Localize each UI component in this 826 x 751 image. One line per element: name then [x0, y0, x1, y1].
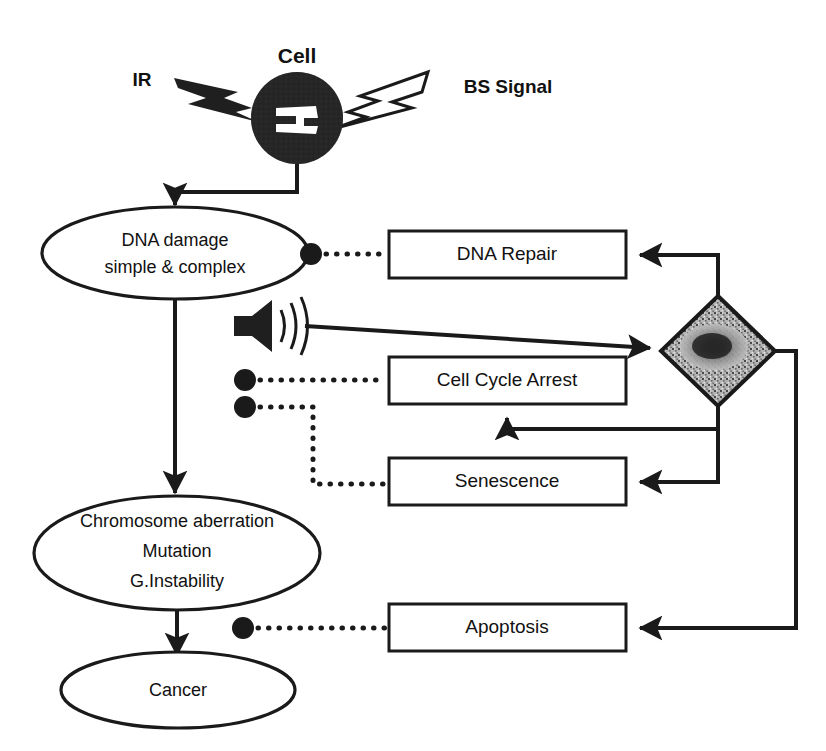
- bs-signal-label: BS Signal: [464, 76, 553, 97]
- aberration-line1: Chromosome aberration: [80, 511, 274, 531]
- apoptosis-label: Apoptosis: [465, 616, 548, 637]
- lightning-bolt-filled-icon: [174, 78, 258, 122]
- cell-title: Cell: [278, 44, 317, 67]
- dna-damage-line1: DNA damage: [121, 230, 228, 250]
- ir-label: IR: [133, 69, 152, 90]
- edge-cell-to-dna-damage: [175, 164, 297, 205]
- speckled-diamond-icon: [661, 296, 775, 406]
- edge-decision-to-cell-cycle-arrest: [507, 406, 718, 429]
- dot-marker-senescence: [234, 396, 256, 418]
- edge-decision-to-senescence: [640, 406, 718, 482]
- diagram-svg: Cell IR BS Signal DNA damage simple & co…: [0, 0, 826, 751]
- senescence-label: Senescence: [455, 470, 560, 491]
- lightning-bolt-outline-icon: [336, 72, 428, 128]
- edge-decision-to-dna-repair: [640, 255, 718, 296]
- aberration-line2: Mutation: [142, 541, 211, 561]
- node-dna-damage: [42, 207, 308, 299]
- dot-marker-cell-cycle-arrest: [234, 369, 256, 391]
- aberration-line3: G.Instability: [130, 571, 224, 591]
- dna-repair-label: DNA Repair: [457, 243, 558, 264]
- dna-damage-line2: simple & complex: [104, 257, 245, 277]
- edge-dotted-to-senescence: [260, 407, 386, 484]
- edge-signal-to-decision: [305, 326, 650, 348]
- diagram-canvas: Cell IR BS Signal DNA damage simple & co…: [0, 0, 826, 751]
- dot-marker-apoptosis: [232, 617, 254, 639]
- dot-marker-dna-repair: [300, 243, 322, 265]
- cell-cycle-arrest-label: Cell Cycle Arrest: [437, 369, 578, 390]
- speaker-signal-icon: [234, 297, 308, 355]
- cancer-label: Cancer: [149, 680, 207, 700]
- filled-cell-with-nucleus-icon: [251, 72, 343, 164]
